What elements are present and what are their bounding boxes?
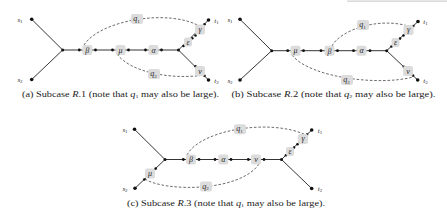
terminal-label-t1: t1 xyxy=(214,17,219,25)
caption-b: (b) Subcase R.2 (note that q2 may also b… xyxy=(232,89,436,99)
figure: β μ α ε γ ν q1 q2 s1 s2 t1 t2 (a) Subcas… xyxy=(0,0,447,216)
terminal-label-s1: s1 xyxy=(17,16,23,24)
terminal-label-s2: s2 xyxy=(122,185,128,193)
node-t2 xyxy=(310,187,314,191)
svg-text:ν: ν xyxy=(254,155,258,164)
label-nu: ν xyxy=(403,66,413,76)
label-q1: q1 xyxy=(234,124,246,134)
terminal-label-t1: t1 xyxy=(318,127,323,135)
svg-text:μ: μ xyxy=(292,46,297,55)
label-alpha: α xyxy=(357,46,367,56)
label-epsilon: ε xyxy=(184,38,192,47)
label-q2: q2 xyxy=(341,75,353,85)
label-beta: β xyxy=(325,46,335,56)
node-s1 xyxy=(238,18,242,22)
svg-text:ν: ν xyxy=(198,67,202,76)
terminal-label-s2: s2 xyxy=(17,76,23,84)
node-s2 xyxy=(30,78,34,82)
caption-c: (c) Subcase R.3 (note that q1 may also b… xyxy=(127,198,325,208)
terminal-label-t2: t2 xyxy=(214,77,219,85)
label-q1: q1 xyxy=(131,14,143,24)
panel-b: μ β α ε γ ν q1 q2 s1 s2 t1 t2 (b) Subcas… xyxy=(227,16,435,100)
terminal-label-t2: t2 xyxy=(318,185,323,193)
label-beta: β xyxy=(82,45,92,55)
label-nu: ν xyxy=(195,66,205,76)
svg-text:μ: μ xyxy=(117,46,122,55)
svg-text:β: β xyxy=(188,155,193,164)
svg-text:β: β xyxy=(327,47,332,56)
label-epsilon: ε xyxy=(286,147,294,156)
label-alpha: α xyxy=(149,45,159,55)
node-t1 xyxy=(207,18,211,22)
label-mu: μ xyxy=(291,46,301,56)
label-mu: μ xyxy=(145,169,155,179)
svg-text:μ: μ xyxy=(147,169,152,178)
label-gamma: γ xyxy=(404,25,414,35)
path-q2 xyxy=(117,54,205,76)
panel-a: β μ α ε γ ν q1 q2 s1 s2 t1 t2 (a) Subcas… xyxy=(17,14,219,99)
svg-text:ν: ν xyxy=(406,67,410,76)
caption-a: (a) Subcase R.1 (note that q1 may also b… xyxy=(22,89,219,99)
terminal-label-t2: t2 xyxy=(423,77,428,85)
label-q2: q2 xyxy=(200,182,212,192)
label-q1: q1 xyxy=(357,20,369,30)
node-t1 xyxy=(416,20,420,24)
terminal-label-s1: s1 xyxy=(227,16,233,24)
node-t2 xyxy=(416,78,420,82)
label-gamma: γ xyxy=(195,25,205,35)
terminal-label-s2: s2 xyxy=(227,77,233,85)
label-gamma: γ xyxy=(298,134,308,144)
node-t2 xyxy=(207,78,211,82)
terminal-label-t1: t1 xyxy=(423,18,428,26)
panel-c: β α ν ε γ μ q1 q2 s1 s2 t1 t2 (c) Subcas… xyxy=(122,124,325,208)
label-epsilon: ε xyxy=(392,38,400,47)
label-nu: ν xyxy=(251,155,261,165)
terminal-label-s1: s1 xyxy=(122,126,128,134)
label-alpha: α xyxy=(218,155,228,165)
label-mu: μ xyxy=(116,45,126,55)
svg-text:β: β xyxy=(84,46,89,55)
node-s2 xyxy=(133,187,137,191)
label-q2: q2 xyxy=(148,69,160,79)
node-t1 xyxy=(310,128,314,132)
node-s1 xyxy=(133,128,137,132)
node-s2 xyxy=(238,78,242,82)
node-s1 xyxy=(30,18,34,22)
label-beta: β xyxy=(186,155,196,165)
